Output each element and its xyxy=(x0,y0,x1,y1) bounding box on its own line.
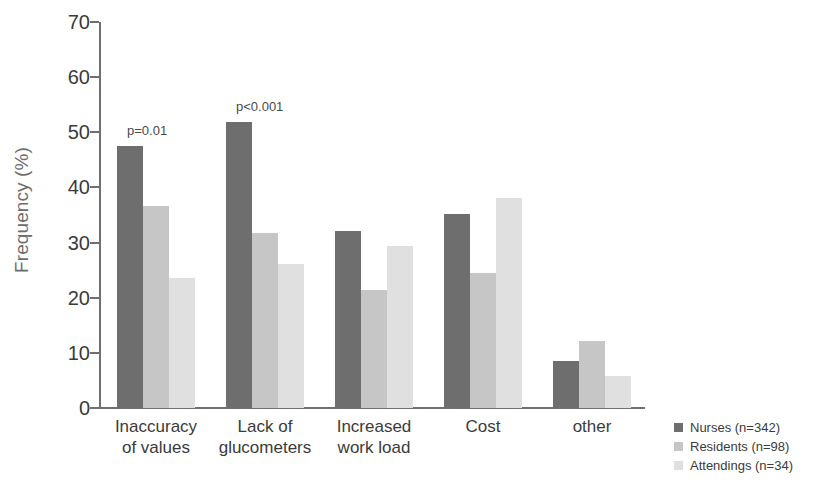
y-axis-tick xyxy=(90,131,99,133)
legend-color-swatch xyxy=(674,442,683,451)
bar[interactable] xyxy=(226,122,252,408)
legend-item[interactable]: Nurses (n=342) xyxy=(674,419,824,436)
y-axis-tick-label: 30 xyxy=(50,233,90,253)
bar[interactable] xyxy=(361,290,387,408)
y-axis-tick xyxy=(90,352,99,354)
y-axis-tick xyxy=(90,297,99,299)
y-axis-tick xyxy=(90,407,99,409)
legend-item-label: Nurses (n=342) xyxy=(690,421,780,434)
p-value-annotation: p<0.001 xyxy=(236,100,283,113)
legend-item-label: Attendings (n=34) xyxy=(690,459,793,472)
bar[interactable] xyxy=(579,341,605,408)
y-axis-tick-labels: 010203040506070 xyxy=(44,22,90,409)
bar[interactable] xyxy=(605,376,631,408)
bar[interactable] xyxy=(169,278,195,408)
y-axis-title-text: Frequency (%) xyxy=(11,147,33,273)
legend-item[interactable]: Attendings (n=34) xyxy=(674,457,824,474)
y-axis-title: Frequency (%) xyxy=(0,0,44,420)
bar-group xyxy=(335,22,413,408)
y-axis-tick xyxy=(90,186,99,188)
legend-color-swatch xyxy=(674,423,683,432)
bar[interactable] xyxy=(470,273,496,408)
bar[interactable] xyxy=(444,214,470,408)
x-axis-category-label: other xyxy=(522,416,662,437)
bar[interactable] xyxy=(387,246,413,408)
bar[interactable] xyxy=(117,146,143,408)
y-axis-tick-label: 60 xyxy=(50,67,90,87)
bar[interactable] xyxy=(278,264,304,408)
y-axis-tick-label: 40 xyxy=(50,177,90,197)
bar[interactable] xyxy=(496,198,522,408)
bar[interactable] xyxy=(335,231,361,408)
y-axis-tick xyxy=(90,76,99,78)
legend-item-label: Residents (n=98) xyxy=(690,440,789,453)
bar[interactable] xyxy=(252,233,278,408)
bar[interactable] xyxy=(143,206,169,408)
bar-chart-figure: Frequency (%) 010203040506070 p=0.01p<0.… xyxy=(0,0,827,491)
y-axis-tick-label: 50 xyxy=(50,122,90,142)
y-axis-tick xyxy=(90,21,99,23)
bar[interactable] xyxy=(553,361,579,408)
legend-color-swatch xyxy=(674,461,683,470)
y-axis-tick-label: 0 xyxy=(50,398,90,418)
p-value-annotation: p=0.01 xyxy=(127,124,167,137)
y-axis-tick-label: 20 xyxy=(50,288,90,308)
y-axis-tick-label: 70 xyxy=(50,12,90,32)
bar-group xyxy=(444,22,522,408)
y-axis-tick-label: 10 xyxy=(50,343,90,363)
plot-area: p=0.01p<0.001 xyxy=(99,22,644,408)
chart-legend: Nurses (n=342)Residents (n=98)Attendings… xyxy=(674,419,824,476)
bar-group xyxy=(553,22,631,408)
bar-group xyxy=(117,22,195,408)
legend-item[interactable]: Residents (n=98) xyxy=(674,438,824,455)
y-axis-tick xyxy=(90,242,99,244)
bar-group xyxy=(226,22,304,408)
